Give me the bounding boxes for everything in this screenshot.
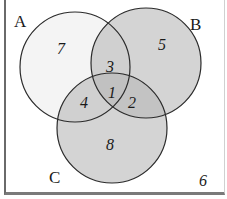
region-outside: 6 bbox=[199, 172, 207, 189]
region-a-and-b: 3 bbox=[105, 58, 114, 75]
region-b-and-c: 2 bbox=[128, 94, 136, 111]
set-b-label: B bbox=[190, 15, 201, 34]
region-a-only: 7 bbox=[57, 40, 66, 57]
region-a-and-c: 4 bbox=[80, 94, 88, 111]
set-a-label: A bbox=[14, 12, 27, 31]
venn-diagram: A B C 7 5 8 3 4 2 1 6 bbox=[0, 0, 227, 199]
region-a-b-c: 1 bbox=[108, 84, 116, 101]
region-b-only: 5 bbox=[158, 36, 166, 53]
set-c-label: C bbox=[49, 168, 60, 187]
region-c-only: 8 bbox=[106, 136, 114, 153]
